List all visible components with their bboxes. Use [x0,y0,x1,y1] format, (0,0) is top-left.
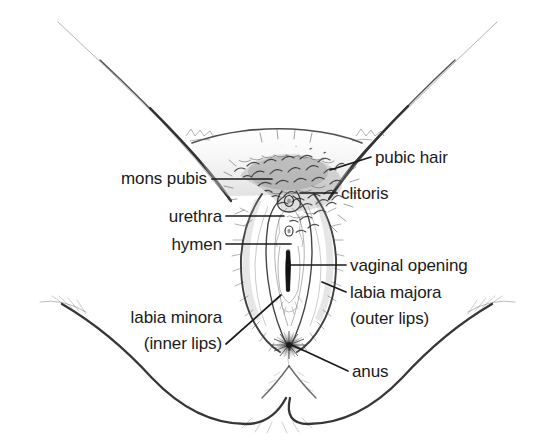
anatomy-figure: pubic hair mons pubis clitoris urethra h… [0,0,550,446]
diagram-page: pubic hair mons pubis clitoris urethra h… [0,0,550,446]
label-labia-minora-sub: (inner lips) [144,334,222,353]
buttock-edge-hairs [52,296,502,433]
label-hymen: hymen [171,235,222,254]
label-clitoris: clitoris [341,184,388,203]
label-anus: anus [352,362,388,381]
perineum-and-anus [262,331,316,398]
body-outlines [40,22,515,433]
label-labia-majora: labia majora [350,283,442,302]
label-vaginal-opening: vaginal opening [350,256,468,275]
label-urethra: urethra [169,207,223,226]
right-thigh-outline [329,22,497,199]
leader-anus [292,345,348,371]
label-labia-minora: labia minora [131,308,223,327]
label-pubic-hair: pubic hair [375,148,448,167]
label-labia-majora-sub: (outer lips) [350,309,429,328]
label-mons-pubis: mons pubis [121,169,207,188]
vaginal-introitus [276,246,302,314]
